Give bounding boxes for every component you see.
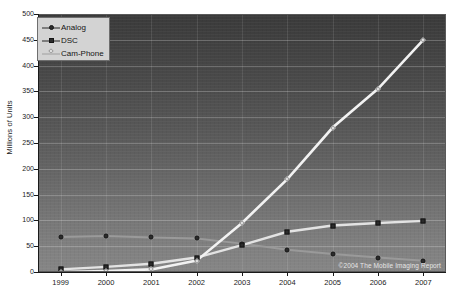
y-axis-tick-mark: [34, 220, 38, 221]
data-point-analog: [58, 234, 63, 239]
y-axis-tick-mark: [34, 272, 38, 273]
data-point-dsc: [240, 243, 245, 248]
data-point-analog: [376, 255, 381, 260]
legend-label-analog: Analog: [61, 23, 86, 32]
legend-swatch-cam-phone: [42, 49, 60, 58]
data-point-dsc: [330, 223, 335, 228]
y-axis-tick-label: 500: [0, 10, 34, 18]
y-axis-tick-label: 150: [0, 191, 34, 199]
x-axis-tick-mark: [423, 272, 424, 276]
y-axis-tick-label: 0: [0, 268, 34, 276]
y-axis-tick-mark: [34, 66, 38, 67]
x-axis-tick-label: 2007: [400, 278, 446, 287]
x-axis-tick-mark: [151, 272, 152, 276]
x-axis-tick-mark: [197, 272, 198, 276]
y-axis-tick-mark: [34, 143, 38, 144]
x-axis-tick-mark: [106, 272, 107, 276]
y-axis-tick-label: 50: [0, 242, 34, 250]
data-point-dsc: [421, 218, 426, 223]
y-axis-tick-mark: [34, 195, 38, 196]
data-point-dsc: [285, 229, 290, 234]
x-axis-tick-mark: [61, 272, 62, 276]
data-point-analog: [330, 251, 335, 256]
data-point-analog: [194, 236, 199, 241]
legend-swatch-dsc: [42, 36, 60, 45]
y-axis-tick-label: 450: [0, 36, 34, 44]
x-axis-tick-mark: [287, 272, 288, 276]
y-axis-tick-label: 200: [0, 165, 34, 173]
x-axis-tick-label: 2004: [264, 278, 310, 287]
x-axis-tick-label: 2000: [83, 278, 129, 287]
legend-label-dsc: DSC: [61, 36, 78, 45]
chart-screenshot: ©2004 The Mobile Imaging Report 05010015…: [0, 0, 451, 301]
legend-label-cam-phone: Cam-Phone: [61, 49, 104, 58]
y-axis-tick-label: 400: [0, 62, 34, 70]
y-axis-tick-mark: [34, 246, 38, 247]
data-point-dsc: [376, 220, 381, 225]
x-axis-tick-label: 1999: [38, 278, 84, 287]
x-axis-tick-label: 2003: [219, 278, 265, 287]
x-axis-tick-mark: [242, 272, 243, 276]
data-point-analog: [104, 233, 109, 238]
data-point-analog: [149, 235, 154, 240]
legend-item-analog: Analog: [42, 21, 105, 34]
x-axis-tick-label: 2001: [128, 278, 174, 287]
y-axis-tick-mark: [34, 91, 38, 92]
x-axis-tick-label: 2006: [355, 278, 401, 287]
credit-text: ©2004 The Mobile Imaging Report: [339, 262, 441, 269]
y-axis-tick-mark: [34, 169, 38, 170]
x-axis-tick-mark: [333, 272, 334, 276]
legend-swatch-analog: [42, 23, 60, 32]
x-axis-tick-mark: [378, 272, 379, 276]
x-axis-tick-label: 2005: [310, 278, 356, 287]
data-point-dsc: [149, 261, 154, 266]
y-axis-tick-mark: [34, 14, 38, 15]
data-point-analog: [285, 247, 290, 252]
legend-item-dsc: DSC: [42, 34, 105, 47]
legend-item-cam-phone: Cam-Phone: [42, 47, 105, 60]
y-axis-tick-mark: [34, 117, 38, 118]
line-analog: [61, 236, 424, 261]
y-axis-label: Millions of Units: [5, 93, 14, 163]
chart-legend: Analog DSC Cam-Phone: [37, 17, 110, 61]
x-axis-tick-label: 2002: [174, 278, 220, 287]
y-axis-tick-label: 100: [0, 216, 34, 224]
